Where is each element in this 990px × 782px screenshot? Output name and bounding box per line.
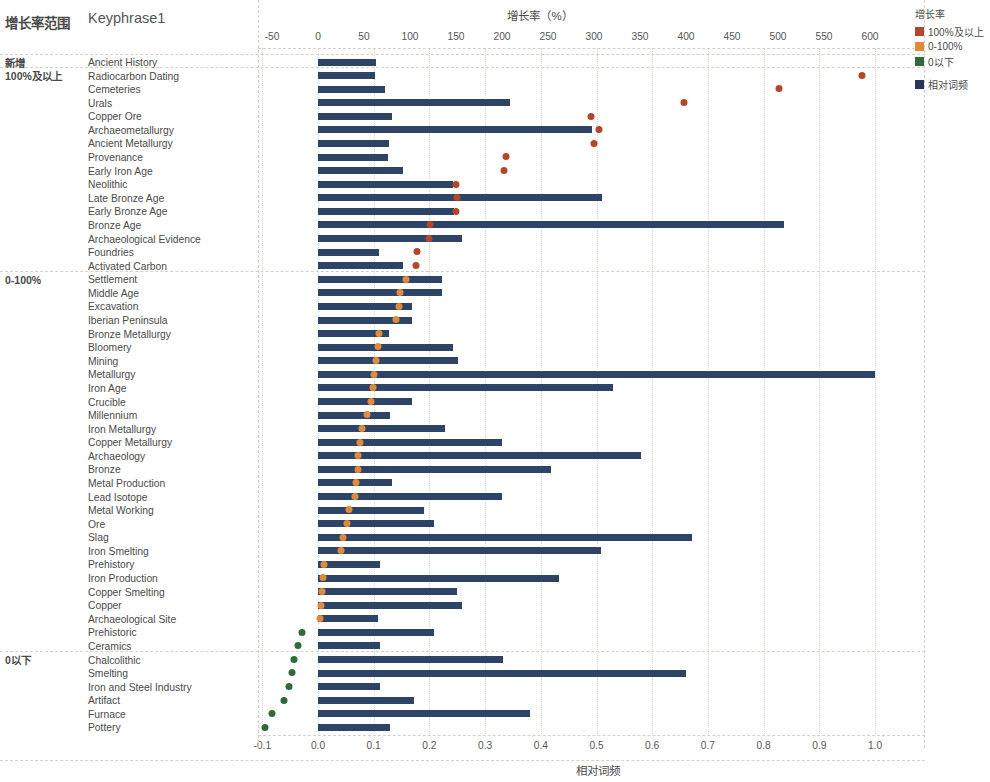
keyphrase-label[interactable]: Prehistoric xyxy=(88,627,137,638)
growth-rate-dot[interactable] xyxy=(502,153,509,160)
keyphrase-label[interactable]: Iberian Peninsula xyxy=(88,315,168,326)
frequency-bar[interactable] xyxy=(318,99,510,106)
growth-rate-dot[interactable] xyxy=(286,683,293,690)
growth-rate-dot[interactable] xyxy=(355,452,362,459)
frequency-bar[interactable] xyxy=(318,221,784,228)
frequency-bar[interactable] xyxy=(318,588,457,595)
frequency-bar[interactable] xyxy=(318,452,641,459)
keyphrase-label[interactable]: Crucible xyxy=(88,397,126,408)
legend-item-0-100[interactable]: 0-100% xyxy=(915,41,990,52)
growth-rate-dot[interactable] xyxy=(346,506,353,513)
frequency-bar[interactable] xyxy=(318,439,502,446)
keyphrase-label[interactable]: Bloomery xyxy=(88,342,132,353)
growth-rate-dot[interactable] xyxy=(299,629,306,636)
growth-rate-dot[interactable] xyxy=(372,357,379,364)
growth-rate-dot[interactable] xyxy=(374,343,381,350)
growth-rate-dot[interactable] xyxy=(427,221,434,228)
keyphrase-label[interactable]: Chalcolithic xyxy=(88,655,141,666)
keyphrase-label[interactable]: Archaeology xyxy=(88,451,145,462)
keyphrase-label[interactable]: Middle Age xyxy=(88,288,139,299)
keyphrase-label[interactable]: Prehistory xyxy=(88,559,134,570)
frequency-bar[interactable] xyxy=(318,561,380,568)
keyphrase-label[interactable]: Archaeometallurgy xyxy=(88,125,174,136)
frequency-bar[interactable] xyxy=(318,357,458,364)
growth-rate-dot[interactable] xyxy=(453,181,460,188)
growth-rate-dot[interactable] xyxy=(775,85,782,92)
growth-rate-dot[interactable] xyxy=(316,615,323,622)
growth-rate-dot[interactable] xyxy=(354,466,361,473)
keyphrase-label[interactable]: Smelting xyxy=(88,668,128,679)
keyphrase-label[interactable]: Bronze Metallurgy xyxy=(88,329,171,340)
growth-rate-dot[interactable] xyxy=(363,411,370,418)
keyphrase-label[interactable]: Ore xyxy=(88,519,105,530)
frequency-bar[interactable] xyxy=(318,520,434,527)
keyphrase-label[interactable]: Iron Production xyxy=(88,573,158,584)
keyphrase-label[interactable]: Furnace xyxy=(88,709,126,720)
keyphrase-label[interactable]: Copper xyxy=(88,600,122,611)
frequency-bar[interactable] xyxy=(318,670,686,677)
frequency-bar[interactable] xyxy=(318,208,454,215)
frequency-bar[interactable] xyxy=(318,289,442,296)
growth-rate-dot[interactable] xyxy=(426,235,433,242)
keyphrase-label[interactable]: Early Bronze Age xyxy=(88,206,168,217)
frequency-bar[interactable] xyxy=(318,249,379,256)
growth-rate-dot[interactable] xyxy=(396,289,403,296)
legend-item-relative-frequency[interactable]: 相对词频 xyxy=(915,77,990,92)
frequency-bar[interactable] xyxy=(318,344,453,351)
growth-rate-dot[interactable] xyxy=(591,140,598,147)
frequency-bar[interactable] xyxy=(318,126,592,133)
growth-rate-dot[interactable] xyxy=(395,303,402,310)
keyphrase-label[interactable]: Archaeological Site xyxy=(88,614,176,625)
frequency-bar[interactable] xyxy=(318,710,530,717)
keyphrase-label[interactable]: Copper Metallurgy xyxy=(88,437,172,448)
growth-rate-dot[interactable] xyxy=(371,371,378,378)
growth-rate-dot[interactable] xyxy=(453,194,460,201)
growth-rate-dot[interactable] xyxy=(319,574,326,581)
growth-rate-dot[interactable] xyxy=(289,669,296,676)
frequency-bar[interactable] xyxy=(318,493,502,500)
growth-rate-dot[interactable] xyxy=(338,547,345,554)
frequency-bar[interactable] xyxy=(318,656,503,663)
keyphrase-label[interactable]: Artifact xyxy=(88,695,120,706)
keyphrase-label[interactable]: Radiocarbon Dating xyxy=(88,71,179,82)
frequency-bar[interactable] xyxy=(318,276,442,283)
keyphrase-label[interactable]: Pottery xyxy=(88,722,121,733)
growth-rate-dot[interactable] xyxy=(357,439,364,446)
frequency-bar[interactable] xyxy=(318,642,380,649)
keyphrase-label[interactable]: Activated Carbon xyxy=(88,261,167,272)
growth-rate-dot[interactable] xyxy=(291,656,298,663)
growth-rate-dot[interactable] xyxy=(339,534,346,541)
keyphrase-label[interactable]: Metal Production xyxy=(88,478,165,489)
growth-rate-dot[interactable] xyxy=(375,330,382,337)
keyphrase-label[interactable]: Ancient Metallurgy xyxy=(88,138,173,149)
frequency-bar[interactable] xyxy=(318,534,692,541)
keyphrase-label[interactable]: Provenance xyxy=(88,152,143,163)
keyphrase-label[interactable]: Cemeteries xyxy=(88,84,141,95)
legend-item-below-0[interactable]: 0以下 xyxy=(915,54,990,69)
growth-rate-dot[interactable] xyxy=(261,724,268,731)
frequency-bar[interactable] xyxy=(318,154,388,161)
frequency-bar[interactable] xyxy=(318,425,445,432)
frequency-bar[interactable] xyxy=(318,629,434,636)
frequency-bar[interactable] xyxy=(318,262,403,269)
growth-rate-dot[interactable] xyxy=(351,493,358,500)
frequency-bar[interactable] xyxy=(318,683,380,690)
growth-rate-dot[interactable] xyxy=(352,479,359,486)
keyphrase-label[interactable]: Archaeological Evidence xyxy=(88,234,201,245)
frequency-bar[interactable] xyxy=(318,235,462,242)
frequency-bar[interactable] xyxy=(318,697,414,704)
growth-rate-dot[interactable] xyxy=(370,384,377,391)
growth-rate-dot[interactable] xyxy=(414,248,421,255)
keyphrase-label[interactable]: Early Iron Age xyxy=(88,166,153,177)
frequency-bar[interactable] xyxy=(318,466,551,473)
frequency-bar[interactable] xyxy=(318,59,376,66)
growth-rate-dot[interactable] xyxy=(294,642,301,649)
frequency-bar[interactable] xyxy=(318,140,389,147)
frequency-bar[interactable] xyxy=(318,384,613,391)
frequency-bar[interactable] xyxy=(318,602,462,609)
growth-rate-dot[interactable] xyxy=(368,398,375,405)
frequency-bar[interactable] xyxy=(318,575,559,582)
keyphrase-label[interactable]: Iron and Steel Industry xyxy=(88,682,192,693)
keyphrase-label[interactable]: Ceramics xyxy=(88,641,131,652)
keyphrase-label[interactable]: Iron Age xyxy=(88,383,126,394)
